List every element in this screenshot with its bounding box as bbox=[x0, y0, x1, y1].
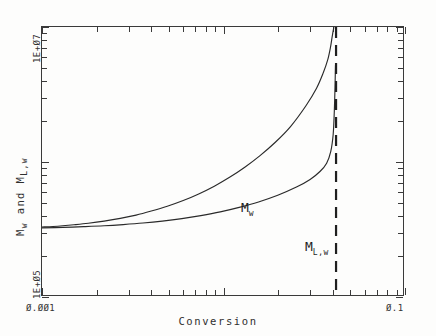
y-axis-title-and: and bbox=[14, 183, 26, 222]
annotation-mlw: ML,w bbox=[305, 239, 329, 257]
x-axis-title: Conversion bbox=[0, 315, 436, 327]
axis-tick bbox=[42, 297, 49, 298]
axis-tick bbox=[405, 27, 406, 34]
axis-tick bbox=[396, 297, 403, 298]
annotation-mlw-base: M bbox=[305, 239, 313, 254]
y-axis-max-label: 1E+Ø7 bbox=[32, 34, 42, 63]
y-axis-title-m1: M bbox=[14, 228, 26, 236]
y-axis-title: Mw and ML,w bbox=[14, 157, 29, 236]
annotation-mw-base: M bbox=[241, 200, 249, 215]
y-axis-min-label: 1E+Ø5 bbox=[32, 270, 42, 299]
y-axis-title-sub1: w bbox=[20, 222, 29, 228]
x-axis-min-label: Ø.ØØ1 bbox=[26, 303, 55, 313]
axis-tick bbox=[405, 288, 406, 295]
chart-page: Mw ML,w 1E+Ø7 1E+Ø5 Ø.ØØ1 Ø.1 Conversion… bbox=[0, 0, 436, 336]
curve-mlw bbox=[42, 65, 335, 228]
x-axis-max-label: Ø.1 bbox=[386, 303, 403, 313]
y-axis-title-m2: M bbox=[14, 176, 26, 184]
curve-layer bbox=[42, 27, 405, 297]
y-axis-title-sub2: L,w bbox=[20, 157, 29, 176]
curve-mw bbox=[42, 27, 334, 227]
annotation-mlw-subscript: L,w bbox=[313, 248, 329, 257]
annotation-mw-subscript: w bbox=[249, 209, 254, 218]
annotation-mw: Mw bbox=[241, 200, 254, 218]
plot-frame: Mw ML,w bbox=[41, 26, 404, 296]
